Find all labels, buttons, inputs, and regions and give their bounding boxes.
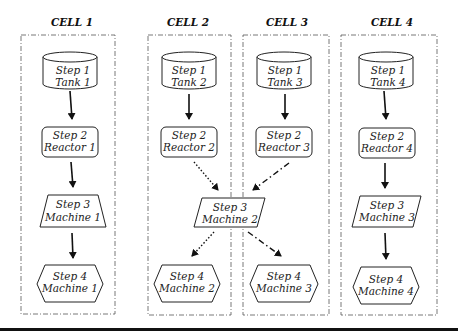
cell-3-title: CELL 3 [266,16,308,28]
tank-4-name: Tank 4 [370,76,406,88]
tank-1-step: Step 1 [56,64,90,76]
reactor-1-node: Step 2 Reactor 1 [42,127,98,157]
arrow-reactor1-machine1 [71,162,73,187]
tank-2-step: Step 1 [172,64,206,76]
reactor-3-step: Step 2 [267,129,302,141]
cell-1-title: CELL 1 [51,16,93,28]
tank-1-node: Step 1 Tank 1 [43,52,97,89]
machine-2-step3-node: Step 3 Machine 2 [194,198,265,227]
machine-4-step4-node: Step 4 Machine 4 [353,267,419,304]
arrow-machine2-step4-m2-dotted [192,232,214,256]
machine-2-step4-node: Step 4 Machine 2 [154,265,220,302]
machine-1-step4-step: Step 4 [53,270,87,282]
tank-2-name: Tank 2 [171,76,207,88]
reactor-1-name: Reactor 1 [43,141,96,153]
machine-1-step3-name: Machine 1 [44,211,101,223]
machine-1-step4-node: Step 4 Machine 1 [37,265,103,302]
machine-2-step4-name: Machine 2 [158,282,215,294]
machine-3-step4-node: Step 4 Machine 3 [250,265,318,302]
reactor-3-node: Step 2 Reactor 3 [256,127,312,157]
tank-4-node: Step 1 Tank 4 [359,52,413,89]
machine-2-step4-step: Step 4 [170,270,204,282]
reactor-2-node: Step 2 Reactor 2 [161,127,217,157]
reactor-1-step: Step 2 [53,129,88,141]
machine-2-step3-name: Machine 2 [201,213,258,225]
tank-1-name: Tank 1 [55,76,91,88]
reactor-2-step: Step 2 [172,129,207,141]
arrow-tank4-reactor4 [384,91,386,119]
arrow-tank1-reactor1 [70,91,72,119]
machine-1-step3-step: Step 3 [56,198,91,210]
machine-2-step3-step: Step 3 [213,201,248,213]
reactor-4-name: Reactor 4 [360,142,413,154]
cell-2-title: CELL 2 [167,16,209,28]
machine-3-step3-name: Machine 3 [358,211,415,223]
tank-3-name: Tank 3 [267,76,303,88]
machine-3-step3-step: Step 3 [370,199,405,211]
reactor-4-node: Step 2 Reactor 4 [359,128,415,158]
tank-3-step: Step 1 [268,64,302,76]
tank-2-node: Step 1 Tank 2 [162,52,216,89]
arrow-machine3-step4 [385,233,386,259]
process-diagram: CELL 1 CELL 2 CELL 3 CELL 4 Step 1 Tank … [0,0,458,335]
machine-4-step4-step: Step 4 [369,273,403,285]
tank-3-node: Step 1 Tank 3 [257,52,311,89]
machine-1-step4-name: Machine 1 [41,282,98,294]
machine-4-step4-name: Machine 4 [357,285,414,297]
reactor-3-name: Reactor 3 [257,141,310,153]
arrow-reactor2-machine2-dotted [194,162,218,190]
cell-4-title: CELL 4 [371,16,413,28]
reactor-2-name: Reactor 2 [162,141,215,153]
arrow-machine2-step4-m3-dashdot [248,232,281,256]
tank-4-step: Step 1 [371,64,405,76]
machine-3-step3-node: Step 3 Machine 3 [352,196,421,227]
machine-1-step3-node: Step 3 Machine 1 [40,195,106,227]
arrow-reactor3-machine2-dashdot [253,163,289,190]
bottom-rule [0,328,458,331]
machine-3-step4-name: Machine 3 [255,282,312,294]
reactor-4-step: Step 2 [370,130,405,142]
arrow-machine1-step4 [72,233,73,258]
machine-3-step4-step: Step 4 [267,270,301,282]
